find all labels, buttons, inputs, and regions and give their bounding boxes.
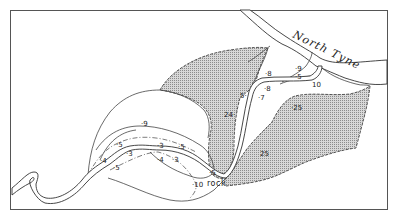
spot-height: ·9 bbox=[141, 120, 148, 128]
spot-height: ·9 bbox=[295, 65, 302, 73]
spot-height: ·25 bbox=[291, 104, 302, 112]
spot-height: 24· bbox=[224, 111, 235, 119]
spot-height: ·3 bbox=[172, 156, 179, 164]
spot-height: ·5 bbox=[178, 143, 185, 151]
spot-height: ·5 bbox=[209, 169, 216, 177]
spot-height: ·4 bbox=[100, 157, 107, 165]
spot-height: ·4 bbox=[157, 156, 164, 164]
terrace-map: rock North Tyne ·9 ·5 ·4 ·5 ·3 ·3 ·5 ·4 … bbox=[0, 0, 397, 220]
spot-height: ·8 bbox=[264, 85, 271, 93]
spot-height: ·8 bbox=[265, 70, 272, 78]
shaded-terrace-east bbox=[225, 86, 371, 186]
rock-label: rock bbox=[207, 179, 226, 188]
spot-height: 5· bbox=[240, 92, 247, 100]
spot-height: ·10 bbox=[192, 181, 203, 189]
terrace-line-dashed-lower bbox=[110, 152, 196, 198]
spot-height: 25 bbox=[260, 150, 269, 158]
spot-height: ·5 bbox=[116, 141, 123, 149]
spot-height: ·3 bbox=[157, 142, 164, 150]
spot-height: ·5 bbox=[113, 164, 120, 172]
spot-height: ·7 bbox=[258, 94, 265, 102]
spot-height: ·5 bbox=[295, 73, 302, 81]
spot-height: ·3 bbox=[126, 150, 133, 158]
spot-height: 10 bbox=[312, 81, 321, 89]
terrace-line-outer bbox=[88, 90, 160, 175]
